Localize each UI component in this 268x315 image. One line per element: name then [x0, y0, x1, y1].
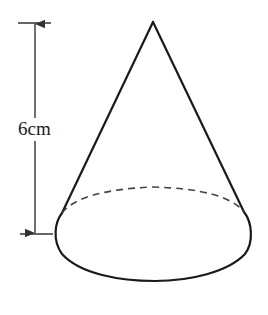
- height-label: 6cm: [17, 119, 52, 139]
- cone-figure: [0, 0, 268, 315]
- base-hidden-edge: [62, 187, 244, 213]
- left-slant-edge: [62, 22, 153, 213]
- cone-sides: [62, 22, 244, 213]
- right-slant-edge: [153, 22, 244, 212]
- base-visible-edge: [56, 212, 251, 281]
